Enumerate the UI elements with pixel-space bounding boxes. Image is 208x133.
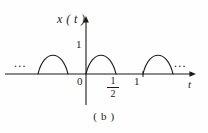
waveform-arch-previous	[38, 55, 68, 74]
x-axis-tick-label-one-half: 1 2	[106, 76, 120, 99]
fraction-denominator: 2	[106, 89, 120, 100]
figure-caption: ( b )	[0, 110, 208, 122]
figure-container: x ( t ) 1 0 1 2 1 t ... ... ( b )	[0, 0, 208, 133]
y-axis-tick-label-one: 1	[76, 39, 82, 50]
fraction-numerator: 1	[106, 76, 120, 87]
y-axis-label: x ( t )	[57, 13, 85, 25]
waveform-arch-first	[86, 55, 116, 74]
origin-label: 0	[77, 76, 83, 87]
ellipsis-right: ...	[174, 57, 187, 69]
x-axis-tick-label-one: 1	[134, 76, 140, 87]
waveform-arch-second	[143, 55, 173, 74]
ellipsis-left: ...	[14, 57, 27, 69]
x-axis-label: t	[188, 79, 191, 90]
